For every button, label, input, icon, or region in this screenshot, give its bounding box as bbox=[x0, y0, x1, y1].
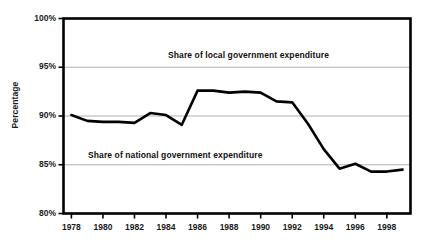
annotation-national-share: Share of national government expenditure bbox=[88, 150, 263, 160]
annotation-local-share: Share of local government expenditure bbox=[168, 50, 329, 60]
x-axis-tick-labels: 1978198019821984198619881990199219941996… bbox=[0, 0, 429, 248]
x-tick-label: 1998 bbox=[367, 222, 407, 232]
line-chart: Percentage 100%95%90%85%80% 197819801982… bbox=[0, 0, 429, 248]
